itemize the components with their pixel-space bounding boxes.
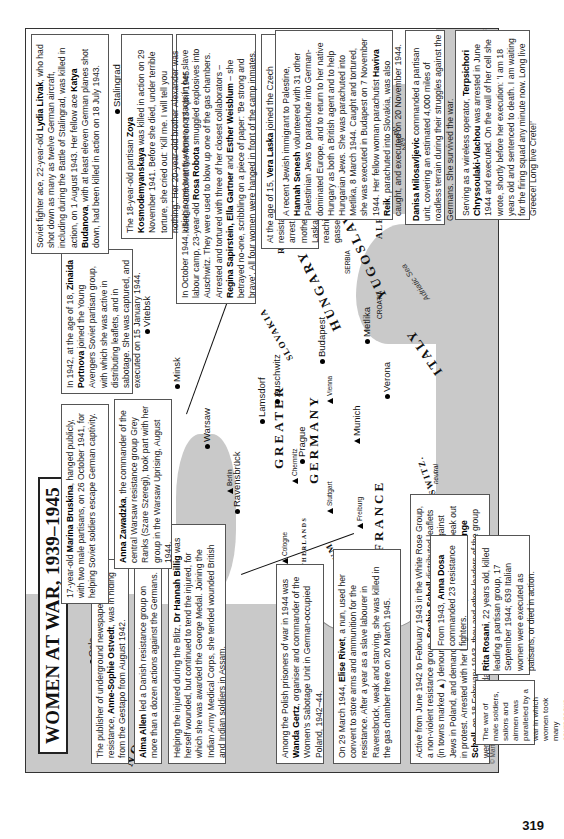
note-billig: Helping the injured during the Blitz, Dr… [168,524,226,764]
city-dot-icon [385,394,390,399]
white-rose-town-icon [357,523,363,529]
note-rosani-page: Rita Rosani, 22 years old, killed leadin… [475,535,530,675]
note-senesh-page: A recent Jewish immigrant to Palestine, … [275,30,393,220]
label-serbia: SERBIA [344,250,351,274]
city-warsaw: Warsaw [201,408,212,449]
city-auschwitz: Auschwitz [271,354,282,404]
city-vienna: Vienna [326,376,333,404]
note-rivet: On 29 March 1944, Elise Rivet, a nun, us… [333,549,401,764]
city-dot-icon [365,339,370,344]
label-germany: GERMANY [306,394,322,484]
city-dot-icon [275,399,280,404]
white-rose-town-icon [327,398,333,404]
note-vlachou-page: Serving as a wireless operator, Terpsich… [455,30,530,220]
note-litvak: Soviet fighter ace, 22-year-old Lydia Li… [31,34,109,254]
note-allen: Alma Allen led a Danish resistance group… [134,559,162,764]
white-rose-town-icon [227,488,233,494]
white-rose-town-icon [354,438,360,444]
city-munich: Munich [351,405,362,444]
note-gertz: Among the Polish prisoners of war in 194… [276,564,324,764]
city-verona: Verona [381,362,392,399]
city-dot-icon [320,359,325,364]
city-dot-icon [300,459,305,464]
city-dot-icon [260,419,265,424]
note-summary-final: The war of male soldiers, sailors and ai… [475,680,535,745]
city-budapest: Budapest [316,317,327,364]
city-berlin: Berlin [226,469,233,494]
note-milosavljevic-page: Danisa Milosavljevic commanded a partisa… [405,30,445,225]
city-minsk: Minsk [171,357,182,389]
city-chemnitz: Chemnitz [291,449,298,484]
city-dot-icon [145,329,150,334]
city-dot-icon [235,509,240,514]
note-dosa-page: From 1943, Anna Dosa commanded 23 resist… [430,535,468,650]
white-rose-town-icon [292,478,298,484]
city-freiburg: Freiburg [356,497,363,529]
label-france: FRANCE [371,480,387,552]
city-dot-icon [205,444,210,449]
note-bruskina: 17-year-old Marina Bruskina, hanged publ… [61,404,109,604]
white-rose-town-icon [327,508,333,514]
city-dot-icon [175,384,180,389]
label-neutral: neutral [432,464,439,484]
page-number: 319 [522,818,544,833]
city-metlika: Metlika [361,307,372,344]
note-zawadzka: Anna Zawadzka, the commander of the cent… [114,399,172,569]
city-stuttgart: Stuttgart [326,481,333,514]
city-dot-icon [115,109,120,114]
city-lamsdorf: Lamsdorf [256,377,267,424]
city-cologne: Cologne [281,532,288,564]
note-kosmodemyanskaya: The 18-year-old partisan Zoya Kosmodemya… [121,34,173,239]
note-portnova: In 1942, at the age of 18, Zinaida Portn… [61,249,133,394]
label-croatia: CROATIA [376,291,383,319]
